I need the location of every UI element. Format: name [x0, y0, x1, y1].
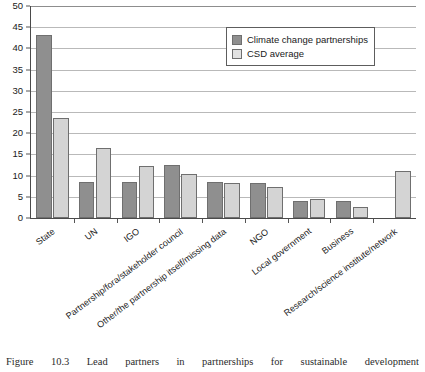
legend-swatch-icon [232, 49, 242, 59]
x-axis-tick-mark [288, 219, 289, 223]
bar [139, 166, 155, 218]
bar [250, 183, 266, 218]
bar [353, 207, 369, 218]
x-axis-tick-mark [373, 219, 374, 223]
y-axis-tick-label: 25 [12, 107, 23, 117]
bar-chart: 05101520253035404550 StateUNIGOPartnersh… [0, 6, 425, 236]
bar [310, 199, 326, 218]
x-axis-tick-mark [117, 219, 118, 223]
bar [293, 201, 309, 218]
bar [96, 148, 112, 218]
x-axis-tick-mark [330, 219, 331, 223]
x-axis-category-label: NGO [248, 226, 270, 246]
caption-text: Figure10.3Leadpartnersinpartnershipsfors… [6, 356, 419, 368]
bar [36, 35, 52, 218]
caption-word: partnerships [202, 356, 253, 368]
caption-word: partners [125, 356, 159, 368]
y-axis-tick-label: 40 [12, 44, 23, 54]
bar [207, 182, 223, 218]
y-axis-tick-label: 50 [12, 1, 23, 11]
bar [267, 187, 283, 218]
x-axis-tick-mark [159, 219, 160, 223]
bar [181, 174, 197, 218]
x-axis-tick-mark [202, 219, 203, 223]
x-axis-category-label: Business [320, 226, 355, 256]
bar [79, 182, 95, 218]
x-axis-category-label: State [34, 226, 57, 247]
caption-word: development [365, 356, 419, 368]
legend-swatch-icon [232, 35, 242, 45]
caption-word: 10.3 [51, 356, 69, 368]
y-axis-tick-label: 45 [12, 22, 23, 32]
bar [395, 171, 411, 218]
bar [336, 201, 352, 218]
caption-word: for [271, 356, 283, 368]
y-axis-tick-label: 5 [18, 192, 23, 202]
x-axis-tick-mark [245, 219, 246, 223]
legend-item: CSD average [232, 47, 368, 60]
bar [224, 183, 240, 218]
y-axis-tick-label: 20 [12, 128, 23, 138]
legend-item: Climate change partnerships [232, 33, 368, 46]
legend-label: CSD average [247, 49, 304, 59]
x-axis-tick-mark [74, 219, 75, 223]
caption-word: in [176, 356, 184, 368]
figure-caption: Figure10.3Leadpartnersinpartnershipsfors… [6, 356, 419, 368]
caption-word: Figure [6, 356, 33, 368]
y-axis: 05101520253035404550 [0, 6, 26, 218]
caption-word: Lead [87, 356, 108, 368]
bar [53, 118, 69, 218]
x-axis-category-labels: StateUNIGOPartnership/fora/stakeholder c… [30, 224, 425, 352]
y-axis-tick-label: 35 [12, 65, 23, 75]
y-axis-tick-label: 15 [12, 150, 23, 160]
bar [122, 182, 138, 218]
y-axis-tick-label: 0 [18, 213, 23, 223]
x-axis-category-label: IGO [122, 226, 141, 244]
caption-word: sustainable [301, 356, 348, 368]
x-axis-category-label: UN [83, 226, 99, 242]
chart-legend: Climate change partnerships CSD average [226, 27, 375, 66]
legend-label: Climate change partnerships [247, 35, 368, 45]
bar [164, 165, 180, 218]
figure-lead-partners: 05101520253035404550 StateUNIGOPartnersh… [0, 0, 425, 372]
y-axis-tick-label: 10 [12, 171, 23, 181]
y-axis-tick-label: 30 [12, 86, 23, 96]
